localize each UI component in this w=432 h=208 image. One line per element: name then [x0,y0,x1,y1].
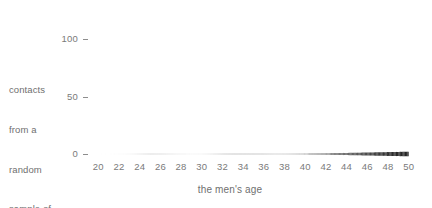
x-tick-label-44: 44 [336,161,358,173]
x-tick-label-22: 22 [108,161,130,173]
x-tick-label-40: 40 [294,161,316,173]
y-tick-label-50: 50 [52,91,78,103]
data-series-contacts [88,30,419,154]
x-tick-label-20: 20 [87,161,109,173]
y-tick-label-100: 100 [52,33,78,45]
x-tick-label-32: 32 [211,161,233,173]
x-tick-label-38: 38 [274,161,296,173]
x-tick-label-26: 26 [149,161,171,173]
x-tick-label-28: 28 [170,161,192,173]
y-tick-value: 100 [52,33,78,45]
x-tick-label-50: 50 [398,161,420,173]
x-tick-label-30: 30 [191,161,213,173]
plot-area [88,30,419,154]
y-tick-dash-0 [83,154,88,155]
y-tick-value: 0 [52,148,78,160]
x-axis-title-text: the men's age [198,184,262,195]
y-axis-label-line-2: from a [9,123,71,136]
x-axis-title: the men's age [0,184,432,195]
x-tick-label-36: 36 [253,161,275,173]
x-tick-label-46: 46 [356,161,378,173]
x-tick-label-24: 24 [129,161,151,173]
y-axis-label-line-4: sample of [9,202,71,208]
chart-canvas: contacts from a random sample of 10k men… [0,0,432,208]
x-tick-label-34: 34 [232,161,254,173]
x-tick-label-48: 48 [377,161,399,173]
y-axis-label-line-3: random [9,163,71,176]
y-tick-value: 50 [52,91,78,103]
y-tick-label-0: 0 [52,148,78,160]
x-tick-label-42: 42 [315,161,337,173]
